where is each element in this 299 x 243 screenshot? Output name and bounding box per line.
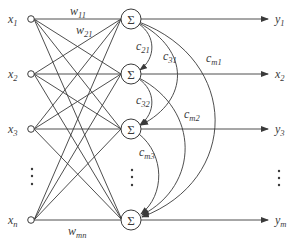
lateral-arcs	[139, 22, 215, 217]
sum-node-3: Σ	[121, 119, 141, 139]
input-labels: x1 x2 x3 xn	[7, 12, 18, 229]
sum-node-2: Σ	[121, 64, 141, 84]
input-node-2	[28, 71, 35, 78]
svg-text:wmn: wmn	[68, 224, 86, 240]
svg-text:w21: w21	[76, 23, 93, 39]
svg-text:x2: x2	[274, 67, 285, 83]
svg-text:y1: y1	[274, 12, 285, 28]
input-nodes	[28, 16, 35, 224]
svg-text:Σ: Σ	[127, 122, 135, 137]
svg-text:x3: x3	[7, 122, 18, 138]
svg-text:y3: y3	[274, 122, 285, 138]
input-node-1	[28, 16, 35, 23]
svg-text:w11: w11	[70, 4, 86, 20]
input-node-3	[28, 126, 35, 133]
input-node-n	[28, 217, 35, 224]
svg-text:cm3: cm3	[139, 145, 155, 161]
lateral-labels: c21 c31 cm1 c32 cm2 cm3	[136, 39, 222, 161]
svg-text:Σ: Σ	[127, 67, 135, 82]
ellipsis-dots	[31, 168, 280, 186]
svg-text:c21: c21	[136, 39, 150, 55]
output-arrows	[141, 19, 268, 220]
svg-text:c31: c31	[163, 49, 177, 65]
weight-connections	[34, 19, 122, 220]
sum-node-m: Σ	[121, 210, 141, 230]
svg-text:x2: x2	[7, 67, 18, 83]
svg-text:Σ: Σ	[127, 12, 135, 27]
svg-text:cm2: cm2	[184, 107, 200, 123]
svg-text:Σ: Σ	[127, 213, 135, 228]
svg-text:c32: c32	[136, 93, 151, 109]
svg-text:cm1: cm1	[206, 51, 222, 67]
svg-text:xn: xn	[7, 213, 18, 229]
neural-network-diagram: x1 x2 x3 xn Σ Σ Σ Σ y1 x2 y3 ym w11 w21 …	[0, 0, 299, 243]
svg-text:x1: x1	[7, 12, 18, 28]
output-labels: y1 x2 y3 ym	[274, 12, 286, 229]
svg-text:ym: ym	[274, 213, 286, 229]
sum-node-1: Σ	[121, 9, 141, 29]
